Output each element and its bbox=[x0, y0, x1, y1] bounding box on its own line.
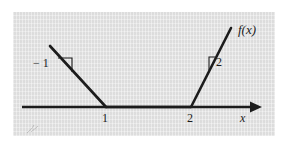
curve-segment-decreasing bbox=[50, 46, 106, 107]
x-tick-label-1: 1 bbox=[102, 112, 108, 124]
slope-marker-left-icon bbox=[58, 58, 72, 72]
function-curve-label: f(x) bbox=[238, 23, 256, 36]
x-tick-label-2: 2 bbox=[187, 112, 193, 124]
curve-segment-increasing bbox=[191, 28, 231, 107]
slope-label-left: − 1 bbox=[33, 57, 49, 69]
x-axis-arrowhead bbox=[250, 102, 262, 113]
x-axis-label: x bbox=[240, 112, 245, 124]
figure-canvas: − 1 2 1 2 x f(x) bbox=[0, 0, 290, 146]
slope-label-right: 2 bbox=[216, 56, 222, 68]
